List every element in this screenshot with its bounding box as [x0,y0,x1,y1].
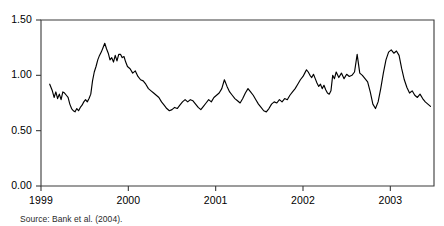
x-axis-tick-label: 2003 [360,194,420,206]
data-series-group [50,43,431,112]
figure-source-caption: Source: Bank et al. (2004). [20,214,122,224]
y-axis-tick-label: 0.50 [0,124,32,136]
y-axis-tick-label: 1.50 [0,13,32,25]
chart-canvas: 0.000.501.001.50 19992000200120022003 So… [0,0,444,226]
line-chart-svg [0,0,444,226]
chart-figure: 0.000.501.001.50 19992000200120022003 So… [0,0,444,226]
x-axis-ticks [41,186,390,191]
x-axis-tick-label: 2002 [273,194,333,206]
y-axis-tick-label: 0.00 [0,179,32,191]
y-axis-tick-label: 1.00 [0,68,32,80]
series-line-1 [50,43,431,112]
y-axis-ticks [36,20,41,186]
x-axis-tick-label: 2001 [186,194,246,206]
axis-frame [41,20,434,186]
x-axis-tick-label: 2000 [98,194,158,206]
x-axis-tick-label: 1999 [11,194,71,206]
